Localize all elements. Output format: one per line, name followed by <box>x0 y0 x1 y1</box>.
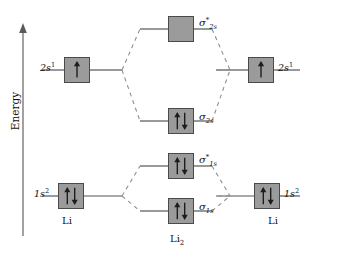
label-sigma-2s: σ2s <box>199 112 214 125</box>
electron-arrow-pair <box>255 184 279 208</box>
atom-label-left: Li <box>62 216 72 226</box>
orbital-box-left-2s[interactable] <box>64 57 90 83</box>
energy-axis-label: Energy <box>9 80 21 142</box>
electron-arrow-pair <box>169 154 193 178</box>
mo-diagram: Energy 2s1 1s2 Li 2s1 <box>0 0 338 259</box>
electron-arrow-pair <box>169 109 193 133</box>
label-right-2s: 2s1 <box>278 62 293 73</box>
label-sigma-1s: σ1s <box>199 202 214 215</box>
molecule-label: Li2 <box>170 234 184 247</box>
label-sigma-2s-star: σ*2s <box>199 17 217 31</box>
orbital-box-sigma-2s[interactable] <box>168 108 194 134</box>
electron-arrow-up <box>249 58 273 82</box>
atom-label-right: Li <box>268 216 278 226</box>
orbital-box-left-1s[interactable] <box>58 183 84 209</box>
electron-arrow-pair <box>59 184 83 208</box>
orbital-box-right-1s[interactable] <box>254 183 280 209</box>
label-left-2s: 2s1 <box>40 62 55 73</box>
label-left-1s: 1s2 <box>34 188 49 199</box>
orbital-box-sigma-2s-star[interactable] <box>168 16 194 42</box>
orbital-box-right-2s[interactable] <box>248 57 274 83</box>
electron-arrow-pair <box>169 199 193 223</box>
label-sigma-1s-star: σ*1s <box>199 154 217 168</box>
orbital-box-sigma-1s[interactable] <box>168 198 194 224</box>
electron-arrow-up <box>65 58 89 82</box>
orbital-box-sigma-1s-star[interactable] <box>168 153 194 179</box>
label-right-1s: 1s2 <box>284 188 299 199</box>
